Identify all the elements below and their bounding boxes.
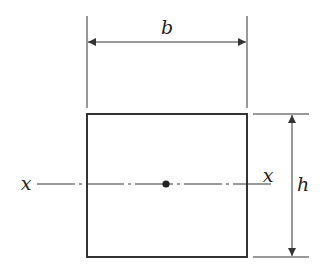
centroid-dot [162,180,169,187]
axis-label-left: x [21,172,32,194]
axis-label-right: x [263,164,274,186]
cross-section-diagram: b h x x [0,0,324,275]
width-label: b [161,16,173,38]
height-label: h [297,173,309,195]
